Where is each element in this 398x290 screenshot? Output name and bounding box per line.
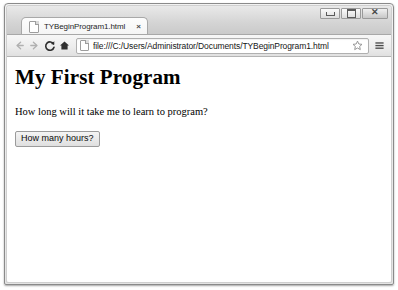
- back-button[interactable]: [12, 38, 27, 54]
- window-inner-border: ✕ TYBeginProgram1.html ×: [6, 5, 392, 283]
- reload-icon: [44, 40, 56, 52]
- page-title: My First Program: [15, 65, 383, 89]
- maximize-button[interactable]: [341, 8, 361, 19]
- bookmark-star-icon[interactable]: [350, 38, 365, 54]
- page-icon: [80, 40, 89, 51]
- page-icon: [29, 21, 39, 33]
- back-arrow-icon: [14, 40, 25, 51]
- window-controls: ✕: [320, 8, 388, 19]
- browser-window: ✕ TYBeginProgram1.html ×: [4, 3, 394, 285]
- forward-arrow-icon: [29, 40, 40, 51]
- minimize-icon: [326, 12, 335, 16]
- minimize-button[interactable]: [320, 8, 340, 19]
- url-text[interactable]: file:///C:/Users/Administrator/Documents…: [93, 41, 350, 51]
- browser-toolbar: file:///C:/Users/Administrator/Documents…: [7, 35, 391, 57]
- forward-button[interactable]: [27, 38, 42, 54]
- page-viewport: My First Program How long will it take m…: [7, 57, 391, 282]
- close-button[interactable]: ✕: [362, 8, 388, 19]
- hamburger-menu-icon: [374, 37, 385, 55]
- maximize-icon: [347, 9, 356, 18]
- how-many-hours-button[interactable]: How many hours?: [15, 131, 100, 147]
- browser-tab[interactable]: TYBeginProgram1.html ×: [21, 17, 148, 35]
- title-bar: ✕ TYBeginProgram1.html ×: [7, 6, 391, 35]
- home-icon: [59, 40, 70, 51]
- browser-menu-button[interactable]: [372, 38, 387, 54]
- tab-title: TYBeginProgram1.html: [44, 22, 125, 31]
- home-button[interactable]: [57, 38, 72, 54]
- reload-button[interactable]: [42, 38, 57, 54]
- page-paragraph: How long will it take me to learn to pro…: [15, 106, 383, 119]
- close-icon: ✕: [371, 8, 379, 17]
- tab-close-icon[interactable]: ×: [136, 23, 141, 31]
- page-content: My First Program How long will it take m…: [7, 57, 391, 147]
- address-bar[interactable]: file:///C:/Users/Administrator/Documents…: [76, 38, 369, 54]
